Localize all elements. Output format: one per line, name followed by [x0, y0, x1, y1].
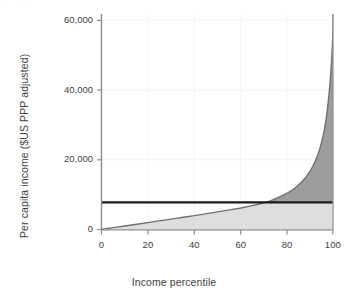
y-tick-label-60000: 60,000 — [33, 14, 93, 25]
y-tick-label-20000: 20,000 — [33, 153, 93, 164]
x-axis-ticks — [102, 230, 333, 235]
x-tick-label-80: 80 — [267, 239, 307, 250]
chart-figure: · · · — [0, 0, 348, 296]
x-tick-label-40: 40 — [174, 239, 214, 250]
x-axis-title: Income percentile — [0, 276, 348, 288]
y-tick-label-40000: 40,000 — [33, 84, 93, 95]
x-tick-label-0: 0 — [82, 239, 122, 250]
y-axis-title: Per capita income ($US PPP adjusted) — [18, 54, 30, 238]
chart-plot-area — [0, 0, 348, 296]
x-tick-label-100: 100 — [313, 239, 348, 250]
x-tick-label-20: 20 — [128, 239, 168, 250]
x-tick-label-60: 60 — [221, 239, 261, 250]
y-tick-label-0: 0 — [33, 223, 93, 234]
